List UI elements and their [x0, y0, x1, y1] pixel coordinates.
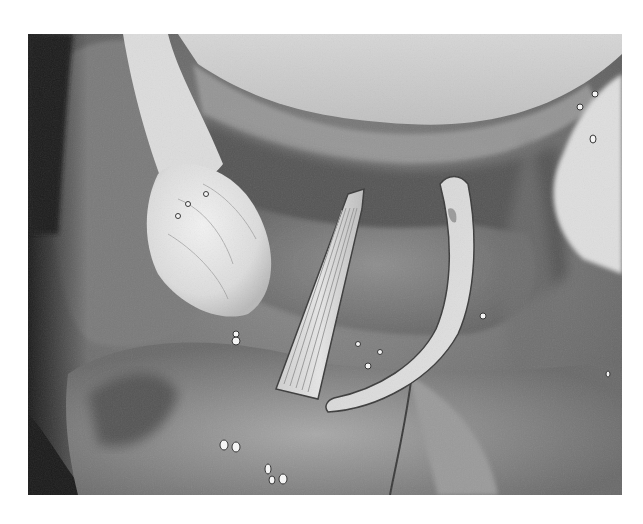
- surgical-photo: [28, 34, 622, 495]
- grain-overlay: [28, 34, 622, 495]
- surgical-photo-illustration: [28, 34, 622, 495]
